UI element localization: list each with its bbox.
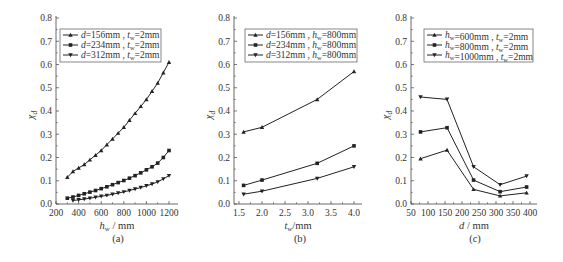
y-tick-label: 0.4: [40, 106, 52, 116]
data-point-marker: [66, 196, 70, 200]
data-point-marker: [242, 184, 246, 188]
data-point-marker: [116, 181, 120, 185]
y-tick-label: 0.8: [395, 13, 407, 23]
data-point-marker: [498, 183, 502, 187]
data-point-marker: [122, 179, 126, 183]
chart-c: 0.00.10.20.30.40.50.60.70.85010015020025…: [380, 13, 537, 245]
data-point-marker: [105, 185, 109, 189]
series-line: [73, 176, 169, 201]
data-point-marker: [472, 178, 476, 182]
y-axis-label: χd: [203, 111, 217, 121]
series-1: [65, 60, 171, 179]
x-tick-label: 600: [94, 208, 109, 218]
data-point-marker: [352, 144, 356, 148]
data-point-marker: [82, 192, 86, 196]
subfigure-caption: (a): [112, 233, 124, 245]
y-tick-label: 0.7: [40, 37, 52, 47]
y-tick-label: 0.1: [218, 176, 230, 186]
x-axis-label: d / mm: [459, 220, 489, 231]
x-tick-label: 3.0: [302, 208, 314, 218]
subfigure-caption: (c): [469, 233, 481, 245]
x-tick-label: 4.0: [348, 208, 360, 218]
data-point-marker: [315, 162, 319, 166]
data-point-marker: [139, 171, 143, 175]
figure: 0.00.10.20.30.40.50.60.70.82004006008001…: [0, 0, 563, 262]
data-point-marker: [433, 43, 437, 47]
data-point-marker: [498, 190, 502, 194]
y-tick-label: 0.6: [40, 60, 52, 70]
data-point-marker: [167, 60, 171, 64]
x-tick-label: 2.5: [279, 208, 291, 218]
chart-b: 0.00.10.20.30.40.50.60.70.81.52.02.53.03…: [203, 13, 362, 245]
x-tick-label: 200: [49, 208, 64, 218]
data-point-marker: [133, 174, 137, 178]
data-point-marker: [254, 43, 258, 47]
y-tick-label: 0.6: [395, 60, 407, 70]
x-tick-label: 350: [506, 208, 521, 218]
data-point-marker: [71, 195, 75, 199]
data-point-marker: [260, 178, 264, 182]
y-tick-label: 0.4: [218, 106, 230, 116]
y-axis-label: χd: [380, 111, 394, 121]
series-3: [418, 95, 528, 187]
y-tick-label: 0.1: [395, 176, 407, 186]
data-point-marker: [525, 185, 529, 189]
y-tick-label: 0.7: [395, 37, 407, 47]
data-point-marker: [94, 189, 98, 193]
y-tick-label: 0.5: [395, 83, 407, 93]
data-point-marker: [128, 176, 132, 180]
y-tick-label: 0.3: [395, 130, 407, 140]
series-line: [421, 97, 527, 185]
x-tick-label: 50: [406, 208, 416, 218]
y-tick-label: 0.4: [395, 106, 407, 116]
data-point-marker: [352, 69, 356, 73]
series-2: [242, 144, 356, 187]
y-tick-label: 0.0: [218, 199, 230, 209]
x-axis-label: hw / mm: [100, 220, 135, 233]
data-point-marker: [167, 174, 171, 178]
chart-a: 0.00.10.20.30.40.50.60.70.82004006008001…: [25, 13, 179, 245]
series-line: [421, 128, 527, 192]
y-tick-label: 0.2: [395, 153, 407, 163]
y-tick-label: 0.1: [40, 176, 52, 186]
data-point-marker: [167, 149, 171, 153]
y-tick-label: 0.5: [218, 83, 230, 93]
data-point-marker: [77, 194, 81, 198]
data-point-marker: [162, 156, 166, 160]
data-point-marker: [76, 166, 80, 170]
data-point-marker: [419, 130, 423, 134]
data-point-marker: [156, 161, 160, 165]
legend: d=156mm , hw=800mmd=234mm , hw=800mmd=31…: [245, 29, 357, 62]
legend-label: d=312mm , hw=800mm: [266, 50, 357, 61]
x-tick-label: 800: [117, 208, 132, 218]
series-line: [67, 62, 169, 177]
data-point-marker: [99, 187, 103, 191]
data-point-marker: [145, 168, 149, 172]
data-point-marker: [150, 165, 154, 169]
y-axis-label: χd: [25, 111, 39, 121]
x-tick-label: 1000: [137, 208, 156, 218]
data-point-marker: [161, 70, 165, 74]
series-line: [244, 146, 354, 186]
y-tick-label: 0.8: [218, 13, 230, 23]
y-tick-label: 0.3: [40, 130, 52, 140]
x-tick-label: 200: [455, 208, 470, 218]
y-tick-label: 0.6: [218, 60, 230, 70]
data-point-marker: [161, 177, 165, 181]
x-tick-label: 100: [421, 208, 436, 218]
series-2: [419, 126, 529, 194]
x-tick-label: 250: [472, 208, 487, 218]
series-1: [241, 69, 356, 133]
y-tick-label: 0.2: [218, 153, 230, 163]
legend-label: hw=1000mm , tw=2mm: [445, 50, 534, 63]
data-point-marker: [156, 81, 160, 85]
y-tick-label: 0.2: [40, 153, 52, 163]
series-1: [418, 148, 528, 198]
series-3: [71, 174, 171, 203]
y-tick-label: 0.3: [218, 130, 230, 140]
x-tick-label: 1200: [160, 208, 179, 218]
x-tick-label: 400: [71, 208, 86, 218]
x-axis-label: tw/mm: [284, 220, 311, 233]
x-tick-label: 1.5: [233, 208, 245, 218]
legend-label: d=312mm , tw=2mm: [81, 50, 160, 61]
